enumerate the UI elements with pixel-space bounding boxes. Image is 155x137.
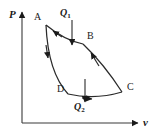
heat-label-q2-subscript: 2: [81, 106, 85, 114]
heat-label-q2: Q2: [74, 102, 85, 114]
pv-diagram-figure: P v A B C D Q1 Q2: [0, 0, 155, 137]
branch-b-c: [83, 44, 122, 92]
x-axis-label: v: [143, 117, 148, 128]
point-label-b: B: [87, 31, 94, 41]
branch-d-c-arrowhead: [82, 98, 92, 99]
heat-label-q1: Q1: [60, 8, 71, 20]
diagram-canvas: [0, 0, 155, 137]
branch-a-b-arrowhead: [53, 31, 62, 37]
heat-label-q1-subscript: 1: [67, 12, 71, 20]
branch-d-c: [68, 92, 122, 97]
point-label-a: A: [34, 12, 41, 22]
y-axis-label: P: [9, 9, 16, 20]
point-label-c: C: [127, 82, 134, 92]
branch-a-b: [46, 25, 83, 44]
point-label-d: D: [57, 84, 64, 94]
